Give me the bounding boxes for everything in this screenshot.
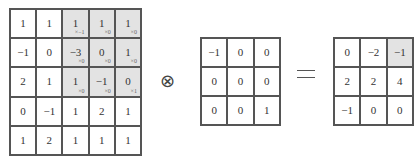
cell-value: 0 <box>371 105 377 116</box>
cell-value: 0 <box>125 76 131 87</box>
matrix-cell: 1 <box>36 9 62 38</box>
cell-value: 1 <box>99 18 105 29</box>
matrix-cell: 1 <box>89 126 115 155</box>
cell-value: 1 <box>125 18 131 29</box>
cell-multiplier: ×−1 <box>75 29 85 35</box>
cell-value: 0 <box>238 76 244 87</box>
cell-value: 1 <box>73 76 79 87</box>
matrix-cell: 1×0 <box>115 9 141 38</box>
cell-multiplier: ×0 <box>104 58 110 64</box>
matrix-cell: 1×0 <box>89 9 115 38</box>
matrix-cell: 0 <box>227 96 253 125</box>
matrix-cell: 1×−1 <box>62 9 88 38</box>
matrix-cell: −1 <box>201 38 227 67</box>
matrix-cell: 0 <box>201 96 227 125</box>
matrix-cell: 0 <box>360 96 386 125</box>
cell-value: 1 <box>125 106 131 117</box>
matrix-cell: 1 <box>115 126 141 155</box>
matrix-cell: −3×0 <box>62 38 88 67</box>
cell-value: 0 <box>211 76 217 87</box>
matrix-cell: 1 <box>36 67 62 96</box>
matrix-cell: 2 <box>10 67 36 96</box>
matrix-cell: 1 <box>62 126 88 155</box>
matrix-cell: 1 <box>115 97 141 126</box>
matrix-cell: 1×0 <box>115 38 141 67</box>
matrix-cell: 1 <box>254 96 280 125</box>
matrix-cell: 2 <box>36 126 62 155</box>
cell-value: 0 <box>47 47 53 58</box>
cell-multiplier: ×0 <box>78 58 84 64</box>
matrix-cell: 2 <box>89 97 115 126</box>
convolution-operator-icon: ⊗ <box>160 72 175 90</box>
cell-value: 4 <box>397 76 403 87</box>
matrix-cell: −1 <box>334 96 360 125</box>
cell-value: 1 <box>125 135 131 146</box>
cell-value: 0 <box>264 47 270 58</box>
matrix-cell: 0 <box>201 67 227 96</box>
cell-value: 2 <box>99 106 105 117</box>
cell-value: 0 <box>238 105 244 116</box>
cell-value: 2 <box>20 76 26 87</box>
cell-multiplier: ×1 <box>131 88 137 94</box>
cell-multiplier: ×0 <box>131 29 137 35</box>
cell-value: 1 <box>73 106 79 117</box>
cell-value: 1 <box>47 18 53 29</box>
matrix-cell: −1 <box>36 97 62 126</box>
cell-value: 1 <box>99 135 105 146</box>
cell-value: 2 <box>47 135 53 146</box>
cell-multiplier: ×0 <box>104 88 110 94</box>
matrix-cell: 4 <box>387 67 413 96</box>
matrix-cell: 0 <box>254 67 280 96</box>
cell-value: 1 <box>20 18 26 29</box>
matrix-cell: 0×0 <box>89 38 115 67</box>
cell-value: −1 <box>341 105 353 116</box>
cell-value: −1 <box>43 106 55 117</box>
matrix-cell: 0 <box>334 38 360 67</box>
cell-value: 0 <box>344 47 350 58</box>
cell-value: 0 <box>99 47 105 58</box>
cell-value: 0 <box>211 105 217 116</box>
cell-value: −1 <box>96 76 108 87</box>
input-matrix: 111×−11×01×0−10−3×00×01×0211×0−1×00×10−1… <box>9 8 142 156</box>
cell-value: −3 <box>70 47 82 58</box>
matrix-cell: 1 <box>10 9 36 38</box>
cell-value: 0 <box>264 76 270 87</box>
matrix-cell: −1×0 <box>89 67 115 96</box>
matrix-cell: 1 <box>10 126 36 155</box>
matrix-cell: 1×0 <box>62 67 88 96</box>
matrix-cell: −1 <box>387 38 413 67</box>
cell-multiplier: ×0 <box>131 58 137 64</box>
matrix-cell: 0 <box>227 67 253 96</box>
cell-value: 2 <box>344 76 350 87</box>
matrix-cell: 1 <box>62 97 88 126</box>
cell-value: 1 <box>73 135 79 146</box>
cell-value: 2 <box>371 76 377 87</box>
matrix-cell: 0 <box>254 38 280 67</box>
cell-value: −1 <box>394 47 406 58</box>
cell-value: −1 <box>17 47 29 58</box>
matrix-cell: 0 <box>387 96 413 125</box>
matrix-cell: 2 <box>334 67 360 96</box>
equals-sign-icon <box>297 70 315 84</box>
cell-value: 1 <box>73 18 79 29</box>
cell-value: 0 <box>397 105 403 116</box>
cell-value: −2 <box>368 47 380 58</box>
cell-value: −1 <box>208 47 220 58</box>
matrix-cell: −1 <box>10 38 36 67</box>
matrix-cell: 0 <box>10 97 36 126</box>
output-matrix: 0−2−1224−100 <box>333 37 414 126</box>
matrix-cell: 0×1 <box>115 67 141 96</box>
matrix-cell: −2 <box>360 38 386 67</box>
matrix-cell: 0 <box>36 38 62 67</box>
cell-multiplier: ×0 <box>104 29 110 35</box>
kernel-matrix: −100000001 <box>200 37 281 126</box>
cell-value: 1 <box>20 135 26 146</box>
cell-value: 1 <box>264 105 270 116</box>
cell-value: 0 <box>238 47 244 58</box>
cell-value: 0 <box>20 106 26 117</box>
cell-value: 1 <box>47 76 53 87</box>
matrix-cell: 0 <box>227 38 253 67</box>
cell-multiplier: ×0 <box>78 88 84 94</box>
cell-value: 1 <box>125 47 131 58</box>
matrix-cell: 2 <box>360 67 386 96</box>
